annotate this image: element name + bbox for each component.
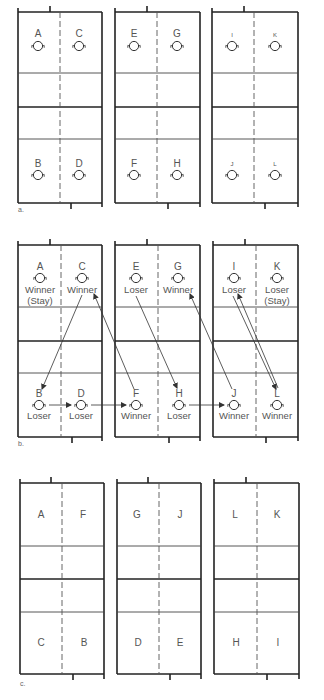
- court-a1: [18, 6, 102, 209]
- player-status: Winner: [121, 410, 151, 421]
- player-icon: [33, 400, 45, 409]
- player-icon: [171, 170, 183, 179]
- player-label: J: [231, 161, 234, 167]
- player-status: Loser: [27, 410, 51, 421]
- player-icon: [269, 41, 281, 50]
- player-icon: [173, 400, 185, 409]
- player-icon: [128, 170, 140, 179]
- player-label: J: [232, 388, 237, 399]
- player-label: E: [177, 637, 184, 648]
- player-label: A: [38, 509, 45, 520]
- player-icon: [32, 41, 44, 50]
- caption-b: b.: [18, 440, 24, 447]
- player-label: F: [80, 509, 86, 520]
- player-label: H: [232, 637, 239, 648]
- player-label: L: [273, 161, 277, 167]
- player-label: C: [78, 261, 85, 272]
- player-status: Winner: [25, 284, 55, 295]
- player-status: Loser: [222, 284, 246, 295]
- arrow-i-to-l: [233, 296, 276, 389]
- caption-a: a.: [18, 206, 24, 213]
- court-a2: [115, 6, 200, 209]
- player-status: Winner: [219, 410, 249, 421]
- section-c: A F C B G J D E L K H I c.: [20, 477, 299, 687]
- player-label: L: [274, 388, 280, 399]
- player-label: H: [173, 158, 180, 169]
- player-icon: [226, 41, 238, 50]
- court-c1: [20, 477, 104, 680]
- player-status: Winner: [163, 284, 193, 295]
- player-label: K: [274, 261, 281, 272]
- player-label: E: [133, 261, 140, 272]
- caption-c: c.: [20, 680, 26, 687]
- player-label: K: [274, 509, 281, 520]
- player-icon: [269, 170, 281, 179]
- player-label: A: [35, 28, 42, 39]
- player-icon: [271, 400, 283, 409]
- player-icon: [32, 170, 44, 179]
- player-icon: [130, 273, 142, 282]
- player-status: Loser: [167, 410, 191, 421]
- player-label: B: [81, 637, 88, 648]
- player-label: H: [175, 388, 182, 399]
- player-label: J: [178, 509, 183, 520]
- player-icon: [228, 273, 240, 282]
- player-label: G: [174, 261, 182, 272]
- player-label: F: [133, 388, 139, 399]
- player-icon: [271, 273, 283, 282]
- player-icon: [228, 400, 240, 409]
- player-label: L: [232, 509, 238, 520]
- player-label: I: [231, 32, 233, 38]
- player-status: Loser: [265, 284, 289, 295]
- player-label: B: [36, 388, 43, 399]
- player-status: Winner: [67, 284, 97, 295]
- court-c2: [117, 477, 201, 680]
- player-status: Loser: [69, 410, 93, 421]
- player-note: (Stay): [27, 295, 52, 306]
- player-label: G: [133, 509, 141, 520]
- player-icon: [73, 41, 85, 50]
- section-b: A Winner (Stay) C Winner B Loser D Loser…: [18, 239, 298, 447]
- arrow-c-to-b: [42, 295, 82, 389]
- player-label: I: [233, 261, 236, 272]
- player-label: D: [75, 158, 82, 169]
- player-icon: [128, 41, 140, 50]
- player-label: K: [273, 32, 277, 38]
- player-label: C: [37, 637, 44, 648]
- player-label: I: [277, 637, 280, 648]
- player-status: Loser: [124, 284, 148, 295]
- player-icon: [73, 170, 85, 179]
- player-icon: [226, 170, 238, 179]
- player-icon: [76, 273, 88, 282]
- court-rotation-diagram: A C B D E G F H I K J L a.: [0, 0, 324, 700]
- player-label: C: [75, 28, 82, 39]
- player-label: D: [134, 637, 141, 648]
- court-c3: [214, 477, 299, 680]
- player-note: (Stay): [264, 295, 289, 306]
- player-icon: [172, 273, 184, 282]
- player-label: G: [173, 28, 181, 39]
- arrow-e-to-h: [136, 296, 177, 388]
- player-label: D: [77, 388, 84, 399]
- court-a3: [212, 6, 298, 209]
- player-icon: [130, 400, 142, 409]
- player-icon: [34, 273, 46, 282]
- player-status: Winner: [262, 410, 292, 421]
- player-label: B: [35, 158, 42, 169]
- section-a: A C B D E G F H I K J L a.: [18, 6, 298, 213]
- player-icon: [75, 400, 87, 409]
- player-label: E: [131, 28, 138, 39]
- player-label: A: [37, 261, 44, 272]
- player-label: F: [131, 158, 137, 169]
- player-icon: [171, 41, 183, 50]
